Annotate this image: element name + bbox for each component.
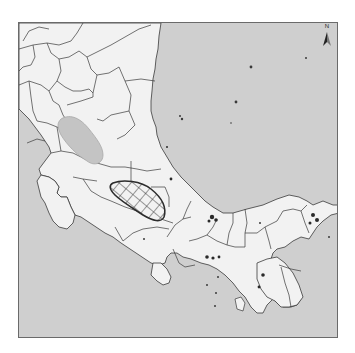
map-canvas [19, 23, 338, 338]
north-arrow: N [319, 24, 335, 48]
map-frame [18, 22, 338, 338]
north-arrow-icon [319, 24, 335, 48]
